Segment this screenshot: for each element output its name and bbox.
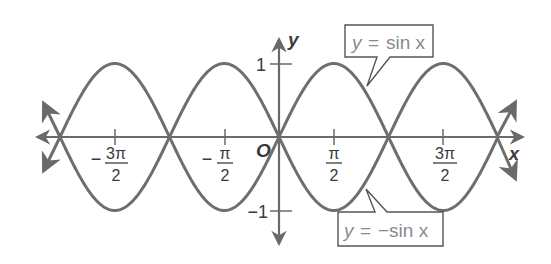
svg-text:2: 2	[441, 167, 450, 184]
svg-text:π: π	[219, 145, 230, 162]
svg-text:y: y	[350, 32, 363, 53]
y-tick-label-neg1: −1	[247, 202, 268, 222]
x-tick-label-3pi-2: 3π 2	[433, 145, 457, 184]
x-tick-label-neg-3pi-2: − 3π 2	[91, 145, 128, 184]
svg-text:3π: 3π	[435, 145, 455, 162]
svg-text:2: 2	[221, 167, 230, 184]
y-tick-label-1: 1	[256, 55, 266, 75]
neg-sin-left-arrow	[44, 137, 60, 170]
origin-label: O	[256, 140, 271, 161]
svg-text:=: =	[360, 220, 371, 241]
y-axis-label: y	[287, 29, 300, 50]
chart-canvas: y x O 1 −1 − 3π 2 − π 2 π 2 3π 2 y = sin…	[0, 0, 551, 264]
svg-text:sin x: sin x	[386, 32, 426, 53]
svg-text:2: 2	[330, 167, 339, 184]
sin-right-arrow	[497, 103, 515, 137]
svg-text:3π: 3π	[106, 145, 126, 162]
svg-text:−: −	[91, 149, 102, 169]
x-axis-label: x	[508, 144, 520, 164]
svg-text:−: −	[202, 149, 213, 169]
svg-text:π: π	[328, 145, 339, 162]
svg-text:2: 2	[112, 167, 121, 184]
svg-text:−sin x: −sin x	[378, 220, 429, 241]
svg-text:y: y	[342, 220, 355, 241]
x-tick-label-neg-pi-2: − π 2	[202, 145, 233, 184]
x-tick-label-pi-2: π 2	[326, 145, 342, 184]
sin-left-arrow	[44, 104, 60, 137]
svg-text:=: =	[368, 32, 379, 53]
